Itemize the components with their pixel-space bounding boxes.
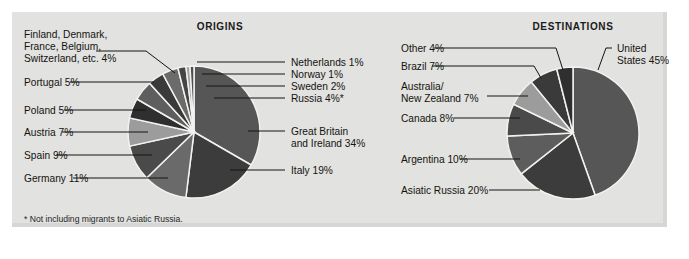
origins-label-norway: Norway 1%	[291, 69, 343, 80]
destinations-label-australia-nz-line2: New Zealand 7%	[401, 93, 479, 104]
origins-label-sweden: Sweden 2%	[291, 81, 345, 92]
leader-line-other	[556, 48, 563, 70]
destinations-pie	[507, 67, 639, 199]
origins-label-great-britain-line1: Great Britain	[291, 126, 348, 137]
origins-label-finland-group-line1: Finland, Denmark,	[24, 29, 107, 40]
origins-footnote: * Not including migrants to Asiatic Russ…	[24, 214, 183, 224]
origins-label-germany: Germany 11%	[24, 173, 88, 184]
origins-label-poland: Poland 5%	[24, 105, 73, 116]
leader-line-united-states	[598, 48, 612, 70]
origins-title: ORIGINS	[197, 21, 243, 32]
destinations-label-united-states-line1: United	[617, 43, 647, 54]
destinations-label-united-states-line2: States 45%	[617, 55, 669, 66]
destinations-label-brazil: Brazil 7%	[401, 61, 444, 72]
pie-charts-svg: ORIGINS Finland, Denmark, France, Belgiu…	[0, 0, 689, 259]
origins-label-austria: Austria 7%	[24, 127, 73, 138]
figure-root: ORIGINS Finland, Denmark, France, Belgiu…	[0, 0, 689, 259]
destinations-label-australia-nz-line1: Australia/	[401, 81, 444, 92]
origins-label-finland-group-line3: Switzerland, etc. 4%	[24, 53, 116, 64]
destinations-label-argentina: Argentina 10%	[401, 154, 468, 165]
destinations-label-asiatic-russia: Asiatic Russia 20%	[401, 185, 488, 196]
origins-label-portugal: Portugal 5%	[24, 77, 80, 88]
leader-line-finland-group	[146, 51, 175, 73]
origins-label-finland-group-line2: France, Belgium,	[24, 41, 101, 52]
origins-label-spain: Spain 9%	[24, 150, 68, 161]
destinations-title: DESTINATIONS	[533, 21, 614, 32]
origins-label-netherlands: Netherlands 1%	[291, 57, 364, 68]
origins-label-great-britain-line2: and Ireland 34%	[291, 138, 365, 149]
destinations-label-canada: Canada 8%	[401, 113, 454, 124]
destinations-label-other: Other 4%	[401, 43, 444, 54]
origins-label-italy: Italy 19%	[291, 165, 333, 176]
origins-label-russia: Russia 4%*	[291, 93, 344, 104]
leader-line-brazil	[534, 66, 541, 78]
